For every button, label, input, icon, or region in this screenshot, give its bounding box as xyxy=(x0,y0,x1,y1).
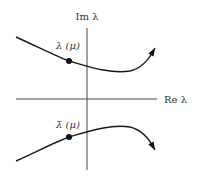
eigenvalue-diagram: Im λ Re λ λ (μ) λ̄ (μ) xyxy=(0,0,197,193)
curve-lambda-point xyxy=(66,58,72,64)
arrowhead-icon xyxy=(148,47,157,57)
real-axis-label: Re λ xyxy=(164,94,188,105)
curve-lambda-path xyxy=(16,37,155,72)
curve-lambda-bar-point xyxy=(66,134,72,140)
curve-lambda-label: λ (μ) xyxy=(55,40,80,51)
diagram-canvas: Im λ Re λ λ (μ) λ̄ (μ) xyxy=(0,0,197,193)
curve-lambda-bar-path xyxy=(16,126,155,161)
imaginary-axis-label: Im λ xyxy=(76,11,100,22)
curve-lambda-bar-label: λ̄ (μ) xyxy=(55,119,80,130)
arrowhead-icon xyxy=(148,142,157,152)
